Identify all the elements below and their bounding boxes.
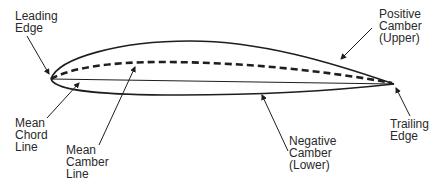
mean-chord-line — [51, 79, 394, 84]
label-positive-camber: Positive Camber (Upper) — [379, 8, 422, 44]
leader-trailing-edge — [396, 88, 410, 116]
leader-mean-camber — [99, 67, 135, 145]
leader-positive-camber — [341, 28, 372, 59]
label-trailing-edge: Trailing Edge — [390, 118, 429, 142]
upper-surface — [51, 41, 394, 84]
label-negative-camber: Negative Camber (Lower) — [289, 135, 336, 171]
label-mean-camber-line: Mean Camber Line — [66, 144, 109, 180]
label-mean-chord-line: Mean Chord Line — [15, 117, 48, 153]
label-leading-edge: Leading Edge — [15, 10, 58, 34]
leader-negative-camber — [262, 95, 288, 151]
leader-mean-chord — [47, 83, 79, 118]
leader-leading-edge — [27, 36, 49, 74]
